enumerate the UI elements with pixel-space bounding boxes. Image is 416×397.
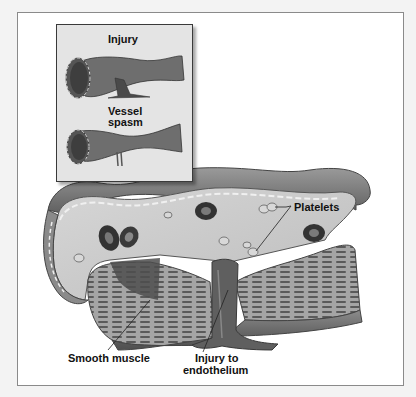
label-injury-to-endothelium-line1: Injury to (195, 352, 238, 364)
label-injury: Injury (108, 33, 138, 45)
inset-illustrations (0, 0, 416, 397)
injury-vessel (66, 56, 184, 98)
label-vessel-spasm-line2: spasm (108, 116, 143, 128)
label-platelets: Platelets (294, 201, 339, 213)
vessel-spasm-vessel (67, 124, 182, 166)
label-smooth-muscle: Smooth muscle (68, 352, 150, 364)
label-injury-to-endothelium-line2: endothelium (183, 364, 248, 376)
